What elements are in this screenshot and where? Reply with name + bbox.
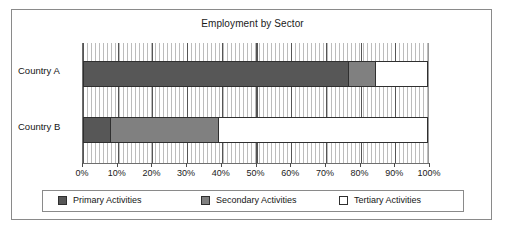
x-axis-tick	[429, 163, 430, 167]
bar-segment-tertiary-country-a[interactable]	[376, 61, 428, 87]
x-axis-tick	[360, 163, 361, 167]
x-axis-ticklabel: 90%	[385, 168, 403, 178]
bar-segment-primary-country-a[interactable]	[83, 61, 349, 87]
bar-segment-secondary-country-b[interactable]	[111, 117, 220, 143]
chart-title: Employment by Sector	[12, 18, 493, 29]
plot-area	[82, 43, 429, 163]
category-label-country-a: Country A	[18, 65, 80, 76]
legend-item-secondary[interactable]: Secondary Activities	[201, 195, 297, 205]
x-axis-ticklabel: 10%	[108, 168, 126, 178]
legend-swatch-primary-icon	[58, 196, 67, 205]
x-axis-ticklabel: 40%	[212, 168, 230, 178]
x-axis-tick	[290, 163, 291, 167]
bar-segment-primary-country-b[interactable]	[83, 117, 111, 143]
x-axis-ticklabel: 100%	[417, 168, 440, 178]
legend-swatch-tertiary-icon	[339, 196, 348, 205]
legend-item-primary[interactable]: Primary Activities	[58, 195, 142, 205]
x-axis-ticklabel: 70%	[316, 168, 334, 178]
x-axis-tick	[394, 163, 395, 167]
bar-segment-secondary-country-a[interactable]	[349, 61, 377, 87]
x-axis-tick	[221, 163, 222, 167]
x-axis-tick	[256, 163, 257, 167]
legend-swatch-secondary-icon	[201, 196, 210, 205]
x-axis-ticks	[82, 163, 429, 167]
x-axis-tick	[82, 163, 83, 167]
legend-label-primary: Primary Activities	[73, 195, 142, 205]
chart-legend: Primary Activities Secondary Activities …	[42, 190, 464, 212]
table-row	[83, 61, 428, 87]
x-axis-ticklabel: 30%	[177, 168, 195, 178]
x-axis-tick	[117, 163, 118, 167]
x-axis-ticklabel: 20%	[142, 168, 160, 178]
table-row	[83, 117, 428, 143]
x-axis-tick	[151, 163, 152, 167]
x-axis-tick	[325, 163, 326, 167]
category-label-country-b: Country B	[18, 121, 80, 132]
x-axis-ticklabel: 60%	[281, 168, 299, 178]
x-axis-ticklabel: 80%	[351, 168, 369, 178]
x-axis-tick	[186, 163, 187, 167]
x-axis-ticklabel: 0%	[75, 168, 88, 178]
legend-label-tertiary: Tertiary Activities	[354, 195, 421, 205]
x-axis-ticklabel: 50%	[246, 168, 264, 178]
legend-label-secondary: Secondary Activities	[216, 195, 297, 205]
bar-segment-tertiary-country-b[interactable]	[219, 117, 428, 143]
legend-item-tertiary[interactable]: Tertiary Activities	[339, 195, 421, 205]
chart-frame: Employment by Sector Country A Country B…	[11, 9, 492, 220]
x-axis-ticklabels: 0%10%20%30%40%50%60%70%80%90%100%	[82, 168, 429, 182]
